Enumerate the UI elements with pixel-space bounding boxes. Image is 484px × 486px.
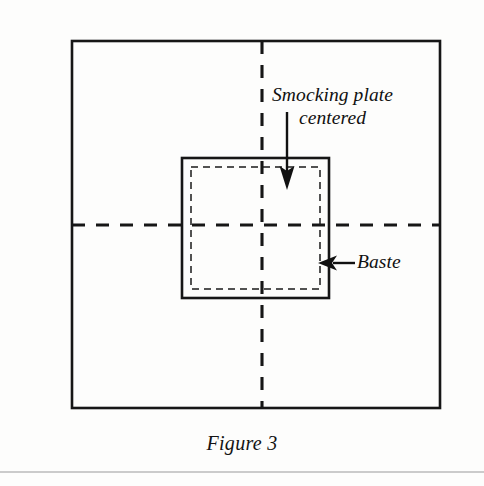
figure-caption: Figure 3: [0, 432, 484, 455]
baste-stitch-line: [191, 167, 320, 289]
smocking-plate-outline: [182, 158, 329, 298]
smocking-plate-label-line1: Smocking plate: [272, 84, 393, 105]
figure-diagram: [0, 0, 484, 486]
figure-page: Smocking plate centered Baste Figure 3: [0, 0, 484, 486]
smocking-plate-label: Smocking plate centered: [272, 84, 393, 129]
smocking-plate-label-line2: centered: [272, 107, 393, 129]
baste-label: Baste: [357, 251, 401, 273]
baste-arrow: [318, 256, 355, 271]
